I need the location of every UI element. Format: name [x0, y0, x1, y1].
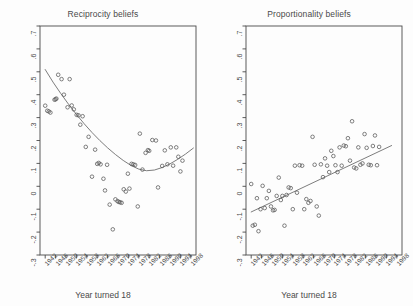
chart-panel-reciprocity: Reciprocity beliefs Year turned 18 .7.6.… — [0, 0, 206, 306]
y-axis-tick-label: .5 — [236, 70, 243, 88]
data-point — [283, 224, 287, 228]
data-point — [102, 177, 106, 181]
data-point — [136, 205, 140, 209]
x-axis-label-proportionality: Year turned 18 — [206, 290, 412, 300]
y-axis-tick-label: -.3 — [30, 254, 37, 272]
y-axis-tick-label: -.3 — [236, 254, 243, 272]
plot-frame — [246, 26, 402, 255]
y-axis-tick-label: -.2 — [236, 231, 243, 249]
data-point — [332, 154, 336, 158]
trend-line — [45, 70, 193, 171]
data-point — [319, 163, 323, 167]
y-axis-tick-label: .1 — [236, 162, 243, 180]
data-point — [371, 144, 375, 148]
data-point — [261, 184, 265, 188]
data-point — [79, 123, 83, 127]
data-point — [179, 170, 183, 174]
data-point — [313, 163, 317, 167]
data-point — [275, 194, 279, 198]
y-axis-tick-label: -.1 — [236, 208, 243, 226]
data-point — [267, 189, 271, 193]
y-axis-tick-label: .6 — [30, 47, 37, 65]
y-axis-tick-label: .4 — [30, 93, 37, 111]
y-axis-tick-label: .2 — [236, 139, 243, 157]
data-point — [255, 196, 259, 200]
data-point — [93, 148, 97, 152]
data-point — [169, 146, 173, 150]
y-axis-tick-label: .3 — [236, 116, 243, 134]
data-point — [56, 73, 60, 77]
trend-line — [251, 146, 391, 212]
data-point — [277, 176, 281, 180]
data-point — [317, 214, 321, 218]
figure-panel-container: Reciprocity beliefs Year turned 18 .7.6.… — [0, 0, 413, 306]
data-point — [171, 164, 175, 168]
data-point — [346, 136, 350, 140]
y-axis-tick-label: .2 — [30, 139, 37, 157]
data-point — [90, 175, 94, 179]
data-point — [357, 146, 361, 150]
data-point — [81, 114, 85, 118]
data-point — [257, 229, 261, 233]
data-point — [340, 164, 344, 168]
data-point — [350, 119, 354, 123]
x-axis-label-reciprocity: Year turned 18 — [0, 290, 206, 300]
data-point — [377, 145, 381, 149]
data-point — [302, 207, 306, 211]
data-point — [156, 186, 160, 190]
data-point — [265, 196, 269, 200]
y-axis-tick-label: .5 — [30, 70, 37, 88]
y-axis-tick-label: .3 — [30, 116, 37, 134]
data-point — [293, 164, 297, 168]
data-point — [373, 134, 377, 138]
data-point — [300, 164, 304, 168]
plot-frame — [40, 26, 196, 255]
data-point — [291, 207, 295, 211]
y-axis-tick-label: -.2 — [30, 231, 37, 249]
y-axis-tick-label: 0 — [30, 185, 37, 203]
data-point — [68, 77, 72, 81]
data-point — [111, 228, 115, 232]
data-point — [103, 189, 107, 193]
data-point — [338, 146, 342, 150]
data-point — [295, 191, 299, 195]
data-point — [334, 163, 338, 167]
data-point — [126, 172, 130, 176]
data-point — [163, 149, 167, 153]
data-point — [84, 145, 88, 149]
data-point — [375, 163, 379, 167]
chart-panel-proportionality: Proportionality beliefs Year turned 18 .… — [206, 0, 412, 306]
y-axis-tick-label: .7 — [236, 25, 243, 43]
data-point — [128, 187, 132, 191]
data-point — [177, 155, 181, 159]
y-axis-tick-label: 0 — [236, 185, 243, 203]
y-axis-tick-label: -.1 — [30, 208, 37, 226]
data-point — [305, 197, 309, 201]
data-point — [279, 198, 283, 202]
data-point — [43, 104, 47, 108]
y-axis-tick-label: .4 — [236, 93, 243, 111]
data-point — [108, 203, 112, 207]
data-point — [269, 205, 273, 209]
data-point — [87, 135, 91, 139]
data-point — [329, 149, 333, 153]
data-point — [138, 132, 142, 136]
y-axis-tick-label: .6 — [236, 47, 243, 65]
data-point — [365, 146, 369, 150]
data-point — [311, 135, 315, 139]
data-point — [348, 159, 352, 163]
data-point — [263, 206, 267, 210]
data-point — [105, 163, 109, 167]
data-point — [122, 187, 126, 191]
data-point — [66, 105, 70, 109]
data-point — [323, 157, 327, 161]
data-point — [62, 93, 66, 97]
data-point — [70, 104, 74, 108]
data-point — [249, 182, 253, 186]
data-point — [315, 205, 319, 209]
data-point — [154, 139, 158, 143]
data-point — [181, 159, 185, 163]
y-axis-tick-label: .1 — [30, 162, 37, 180]
data-point — [124, 190, 128, 194]
data-point — [363, 132, 367, 136]
